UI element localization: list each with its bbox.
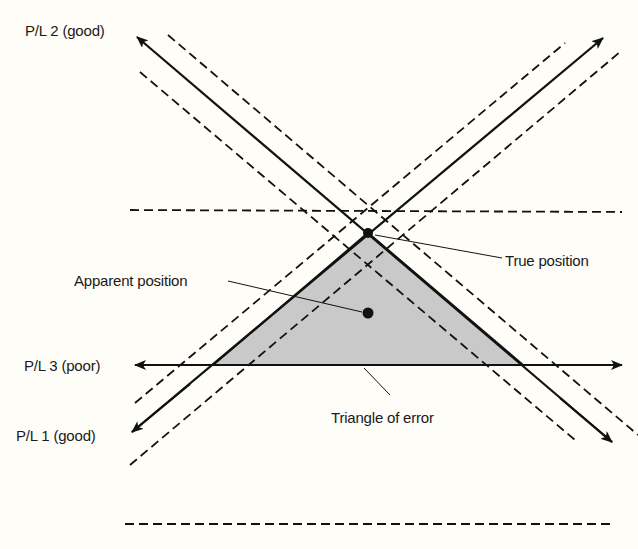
pl2-label: P/L 2 (good) bbox=[25, 23, 105, 38]
pl3-label: P/L 3 (poor) bbox=[24, 358, 100, 373]
pl2-line-lower-arrow bbox=[560, 398, 612, 442]
triangle-of-error-leader bbox=[364, 368, 390, 395]
apparent-position-label: Apparent position bbox=[74, 273, 187, 288]
pl1-label: P/L 1 (good) bbox=[16, 428, 96, 443]
true-position-label: True position bbox=[505, 253, 589, 268]
triangle-of-error-label: Triangle of error bbox=[331, 410, 434, 425]
true-position-dot bbox=[363, 228, 373, 238]
pl1-line-lower-arrow bbox=[132, 384, 190, 432]
apparent-position-dot bbox=[363, 308, 374, 319]
